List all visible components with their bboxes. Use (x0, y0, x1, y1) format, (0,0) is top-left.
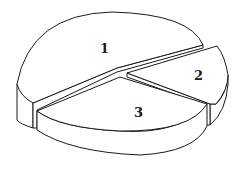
slice-2-label: 2 (194, 68, 203, 83)
slice-1-label: 1 (100, 41, 109, 56)
exploded-pie-diagram: 1 2 3 (0, 0, 244, 169)
slice-3-label: 3 (134, 105, 143, 120)
